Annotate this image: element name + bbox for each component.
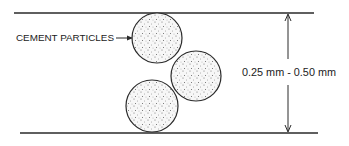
gap-size-label: 0.25 mm - 0.50 mm: [242, 66, 336, 78]
cement-particle: [132, 13, 182, 63]
particle-pointer-arrow: [116, 36, 133, 41]
cement-particle: [126, 80, 178, 132]
cement-particles-label: CEMENT PARTICLES: [16, 32, 114, 43]
cement-gap-diagram: CEMENT PARTICLES 0.25 mm - 0.50 mm: [0, 0, 349, 146]
cement-particle: [171, 51, 221, 101]
